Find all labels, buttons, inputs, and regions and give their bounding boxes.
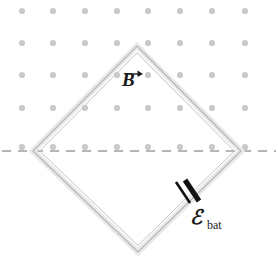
battery-emf-subscript: bat: [207, 218, 222, 233]
physics-figure: B ℰ bat: [0, 0, 278, 269]
magnetic-field-label: B: [122, 70, 135, 89]
battery-layer: [0, 0, 278, 269]
battery-emf-symbol: ℰ: [190, 207, 202, 227]
